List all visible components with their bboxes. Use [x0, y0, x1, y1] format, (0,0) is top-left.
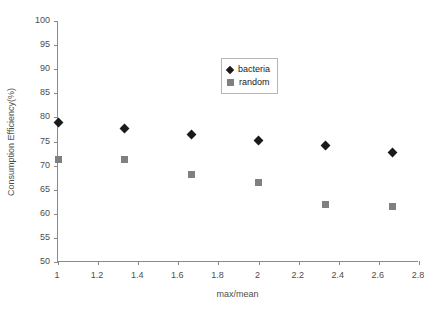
- y-axis-tick: [54, 214, 58, 215]
- x-axis-tick: [339, 261, 340, 265]
- x-axis-tick-label: 1.8: [197, 271, 237, 280]
- x-axis-tick: [58, 261, 59, 265]
- y-axis-tick-label: 95: [10, 40, 50, 49]
- y-axis-tick-label: 90: [10, 64, 50, 73]
- y-axis-tick: [54, 238, 58, 239]
- y-axis-tick-label: 60: [10, 209, 50, 218]
- x-axis-tick-label: 2: [238, 271, 278, 280]
- y-axis-tick: [54, 166, 58, 167]
- x-axis-tick-label: 1.2: [77, 271, 117, 280]
- y-axis-tick-label: 50: [10, 257, 50, 266]
- data-point-bacteria: [187, 129, 197, 139]
- legend-item-bacteria: bacteria: [227, 63, 270, 76]
- x-axis-tick: [379, 261, 380, 265]
- y-axis-tick: [54, 93, 58, 94]
- y-axis-tick: [54, 45, 58, 46]
- x-axis-tick: [178, 261, 179, 265]
- data-point-bacteria: [254, 136, 264, 146]
- data-point-random: [188, 171, 195, 178]
- scatter-chart-figure: Consumption Efficiency(%) 50556065707580…: [0, 0, 441, 321]
- y-axis-tick-label: 80: [10, 112, 50, 121]
- y-axis-tick: [54, 69, 58, 70]
- y-axis-tick-label: 75: [10, 137, 50, 146]
- data-point-bacteria: [120, 124, 130, 134]
- legend-item-label: bacteria: [238, 65, 270, 74]
- y-axis-tick-label: 70: [10, 161, 50, 170]
- x-axis-tick-label: 1.6: [157, 271, 197, 280]
- x-axis-tick: [259, 261, 260, 265]
- diamond-marker-icon: [226, 65, 234, 73]
- x-axis-tick: [419, 261, 420, 265]
- data-point-bacteria: [53, 117, 63, 127]
- data-point-bacteria: [387, 147, 397, 157]
- legend-item-label: random: [239, 78, 270, 87]
- caption-fragment: [6, 312, 436, 321]
- x-axis-tick-label: 2.8: [398, 271, 438, 280]
- y-axis-tick-label: 85: [10, 88, 50, 97]
- data-point-random: [55, 156, 62, 163]
- y-axis-tick-label: 65: [10, 185, 50, 194]
- y-axis-tick-label: 100: [10, 16, 50, 25]
- x-axis-title: max/mean: [57, 289, 418, 299]
- x-axis-tick-label: 1: [37, 271, 77, 280]
- x-axis-tick: [98, 261, 99, 265]
- y-axis-tick: [54, 21, 58, 22]
- x-axis-tick-label: 2.4: [318, 271, 358, 280]
- chart-legend: bacteriarandom: [221, 58, 278, 94]
- square-marker-icon: [227, 79, 234, 86]
- x-axis-tick: [218, 261, 219, 265]
- y-axis-tick-label: 55: [10, 233, 50, 242]
- x-axis-tick-label: 1.4: [117, 271, 157, 280]
- x-axis-tick: [299, 261, 300, 265]
- x-axis-tick-label: 2.6: [358, 271, 398, 280]
- legend-item-random: random: [227, 76, 270, 89]
- x-axis-tick: [138, 261, 139, 265]
- data-point-random: [121, 156, 128, 163]
- x-axis-tick-label: 2.2: [278, 271, 318, 280]
- data-point-random: [389, 203, 396, 210]
- y-axis-tick: [54, 190, 58, 191]
- data-point-bacteria: [320, 141, 330, 151]
- y-axis-tick: [54, 142, 58, 143]
- data-point-random: [322, 201, 329, 208]
- data-point-random: [255, 179, 262, 186]
